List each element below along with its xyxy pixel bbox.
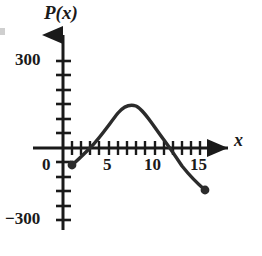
left-endpoint-marker: [68, 161, 77, 170]
x-tick-label-10: 10: [144, 155, 161, 175]
x-tick-label-0: 0: [42, 155, 51, 175]
y-tick-label-neg300: −300: [5, 209, 40, 229]
x-tick-label-5: 5: [103, 155, 112, 175]
y-tick-label-300: 300: [15, 50, 41, 70]
x-axis-label: x: [234, 130, 243, 151]
right-endpoint-marker: [201, 186, 210, 195]
parabola-graph-figure: P(x) x 300 −300 0 5 10 15: [0, 0, 262, 256]
y-axis-label: P(x): [44, 2, 78, 24]
x-tick-label-15: 15: [190, 155, 207, 175]
